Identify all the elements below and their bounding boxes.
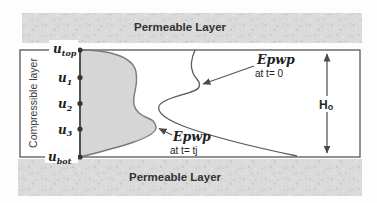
diagram-canvas: Permeable Layer Permeable Layer Compress…: [0, 0, 377, 203]
node-dot-u1: [77, 75, 82, 80]
permeable-layer-bottom-label: Permeable Layer: [129, 171, 222, 183]
epwp-t0-title: Epwp: [256, 52, 295, 67]
node-dot-u-bot: [77, 154, 82, 159]
node-dot-u3: [77, 126, 82, 131]
epwp-t0-subtitle: at t= 0: [255, 68, 284, 79]
compressible-layer-label: Compressible layer: [27, 58, 39, 148]
node-dot-u-top: [77, 47, 82, 52]
permeable-layer-top-label: Permeable Layer: [134, 21, 227, 33]
epwp-tj-subtitle: at t= tj: [170, 145, 198, 156]
epwp-tj-title: Epwp: [172, 129, 211, 144]
consolidation-diagram: Permeable Layer Permeable Layer Compress…: [0, 0, 377, 203]
node-dot-u2: [77, 101, 82, 106]
